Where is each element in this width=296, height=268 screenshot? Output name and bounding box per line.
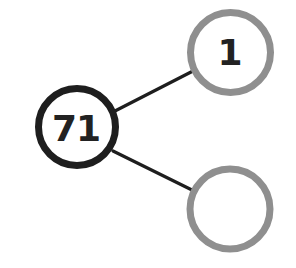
whole-node: 71 bbox=[39, 89, 116, 166]
whole-value: 71 bbox=[52, 108, 100, 149]
part-circle-2[interactable] bbox=[190, 169, 270, 249]
number-bond-diagram: 71 1 bbox=[0, 0, 296, 268]
connector-whole-to-part-1 bbox=[113, 71, 193, 112]
part-node-2[interactable] bbox=[190, 169, 270, 249]
part-node-1: 1 bbox=[191, 13, 271, 93]
connector-whole-to-part-2 bbox=[113, 151, 194, 191]
part-value-1: 1 bbox=[217, 32, 242, 73]
